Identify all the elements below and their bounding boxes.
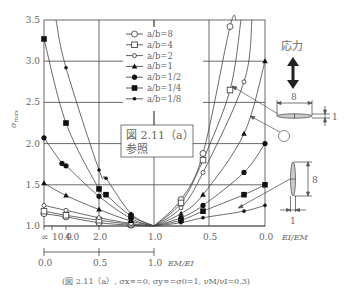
x-tick-top: 4.0 [65, 232, 80, 242]
x-axis-label-bottom: EM/EI [167, 259, 195, 268]
x-tick-top: ∞ [41, 232, 49, 242]
curve-right [154, 185, 265, 226]
reference-note: 図 2.11（a） 参照 [121, 125, 194, 157]
caption: (図 2.11（a）, σx∞=0, σy∞=σ0=1, νM/νI=0.3) [62, 277, 250, 286]
x-axis-ei-em: ∞10.04.02.01.00.50.0EI/EM [41, 226, 309, 242]
chart: 1.01.52.02.53.03.5 σmax ∞10.04.02.01.00.… [0, 0, 351, 294]
y-tick: 3.5 [26, 15, 41, 25]
x-axis-em-ei: 0.00.51.0EM/EI [38, 248, 195, 268]
legend-item: a/b=1 [147, 61, 173, 71]
horizontal-ellipse [277, 100, 330, 126]
legend-item: a/b=1/2 [147, 72, 181, 82]
x-tick-top: 2.0 [93, 232, 108, 242]
legend-item: a/b=2 [147, 51, 173, 61]
double-arrow-icon [287, 57, 299, 89]
stress-label: 応力 [281, 39, 303, 53]
pointer-lines [232, 86, 290, 142]
y-axis-ticks: 1.01.52.02.53.03.5 [26, 15, 41, 231]
note-line-2: 参照 [126, 142, 148, 156]
x-axis-label-top: EI/EM [281, 233, 309, 242]
y-tick: 1.0 [26, 221, 41, 231]
x-tick-bottom: 0.0 [38, 258, 53, 268]
y-tick: 2.0 [26, 139, 41, 149]
x-tick-bottom: 1.0 [148, 258, 163, 268]
width-label-vertical: 1 [290, 216, 296, 226]
y-axis-label: σmax [9, 109, 19, 128]
y-tick: 2.5 [26, 97, 41, 107]
vertical-ellipse [238, 162, 312, 212]
height-label: 1 [332, 112, 338, 122]
x-tick-top: 0.0 [259, 232, 274, 242]
legend-item: a/b=1/4 [147, 83, 181, 93]
y-tick: 1.5 [26, 180, 41, 190]
x-tick-top: 0.5 [203, 232, 218, 242]
width-label: 8 [291, 92, 297, 102]
x-tick-bottom: 0.5 [93, 258, 108, 268]
x-tick-top: 1.0 [148, 232, 163, 242]
legend-item: a/b=4 [147, 40, 173, 50]
legend-item: a/b=8 [147, 29, 173, 39]
y-tick: 3.0 [26, 56, 41, 66]
legend-item: a/b=1/8 [147, 94, 181, 104]
note-line-1: 図 2.11（a） [126, 129, 194, 142]
legend: a/b=8a/b=4a/b=2a/b=1a/b=1/2a/b=1/4a/b=1/… [123, 20, 203, 125]
height-label-vertical: 8 [312, 175, 318, 185]
